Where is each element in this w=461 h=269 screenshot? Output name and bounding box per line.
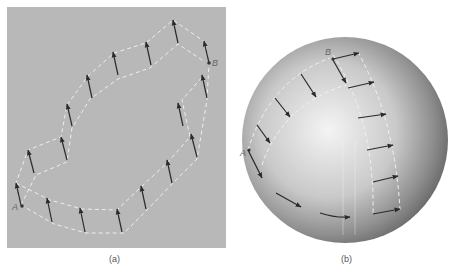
sphere: [242, 37, 448, 243]
sphere-point-a-label: A: [239, 148, 246, 158]
sphere-point-b-label: B: [325, 47, 331, 57]
point-a-marker: [20, 204, 24, 208]
caption-b: (b): [341, 254, 352, 264]
panel-a: A B: [7, 7, 226, 248]
point-b-marker: [207, 61, 211, 65]
sphere-point-a-marker: [247, 148, 250, 151]
panel-b: A B: [239, 37, 448, 243]
figure: A B: [0, 0, 461, 269]
point-a-label: A: [11, 202, 18, 212]
point-b-label: B: [212, 58, 218, 68]
caption-a: (a): [109, 254, 120, 264]
panel-a-background: [7, 7, 226, 248]
sphere-point-b-marker: [331, 57, 334, 60]
